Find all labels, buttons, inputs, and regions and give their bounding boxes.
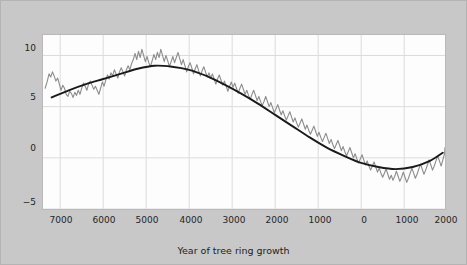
series-path-0: [45, 49, 445, 182]
x-axis-title: Year of tree ring growth: [0, 245, 467, 256]
x-tick-label-6000bc: 6000: [86, 216, 122, 225]
x-tick-label-2000ad: 2000: [428, 216, 464, 225]
y-tick-label-0: 0: [18, 144, 36, 153]
x-tick-label-4000bc: 4000: [173, 216, 209, 225]
x-tick-label-1000bc: 1000: [302, 216, 338, 225]
data-series-layer: [43, 35, 445, 209]
y-tick-label-minus5: −5: [14, 198, 36, 207]
figure-container: Change in ¹⁴C (‰) from 19th-century valu…: [0, 0, 467, 265]
x-tick-label-2000bc: 2000: [259, 216, 295, 225]
x-tick-label-7000bc: 7000: [43, 216, 79, 225]
x-tick-label-0: 0: [346, 216, 382, 225]
x-tick-label-1000ad: 1000: [389, 216, 425, 225]
series-path-1: [52, 66, 443, 169]
y-tick-label-5: 5: [18, 93, 36, 102]
y-tick-label-10: 10: [18, 44, 36, 53]
x-tick-label-5000bc: 5000: [129, 216, 165, 225]
plot-area: [42, 34, 446, 210]
x-tick-label-3000bc: 3000: [216, 216, 252, 225]
